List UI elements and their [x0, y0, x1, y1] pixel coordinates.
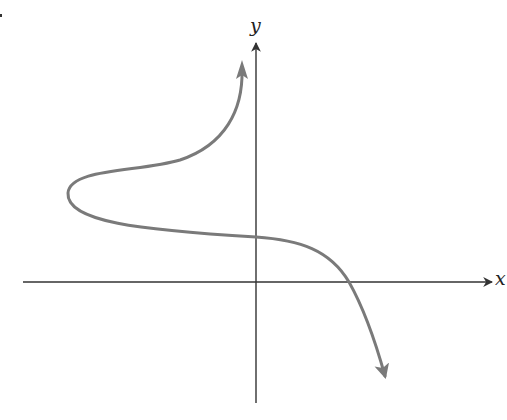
y-axis-label: y [250, 16, 261, 35]
scan-artifact [0, 14, 2, 17]
diagram-canvas [0, 0, 507, 420]
function-curve [68, 70, 385, 376]
x-axis-label: x [495, 269, 506, 288]
